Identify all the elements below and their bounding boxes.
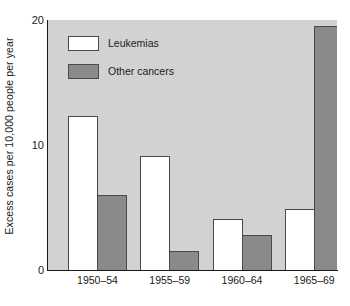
legend-swatch-leukemias xyxy=(68,36,99,51)
bar-chart-figure: Excess cases per 10,000 people per year … xyxy=(0,0,350,306)
x-axis-tick-labels: 1950–541955–591960–641965–69 xyxy=(48,274,337,294)
x-axis-tick-label: 1965–69 xyxy=(284,274,344,286)
x-axis-tick-label: 1955–59 xyxy=(140,274,200,286)
legend-label-other-cancers: Other cancers xyxy=(108,65,174,77)
legend-swatch-other-cancers xyxy=(68,64,99,79)
x-axis-line xyxy=(47,270,338,271)
legend-item-other-cancers: Other cancers xyxy=(68,60,174,82)
bar-leukemias xyxy=(285,209,315,270)
legend: Leukemias Other cancers xyxy=(68,32,174,88)
y-axis-tick-label: 20 xyxy=(18,15,44,26)
bar-other-cancers xyxy=(97,195,127,270)
y-axis-tick-label: 0 xyxy=(18,265,44,276)
y-axis-tick-label: 10 xyxy=(18,140,44,151)
bar-leukemias xyxy=(140,156,170,270)
bar-other-cancers xyxy=(242,235,272,270)
bar-leukemias xyxy=(213,219,243,270)
bar-other-cancers xyxy=(314,26,337,270)
x-axis-tick-label: 1950–54 xyxy=(68,274,128,286)
bar-other-cancers xyxy=(169,251,199,270)
bar-leukemias xyxy=(68,116,98,270)
x-axis-tick-label: 1960–64 xyxy=(212,274,272,286)
legend-item-leukemias: Leukemias xyxy=(68,32,174,54)
plot-area: Leukemias Other cancers xyxy=(48,20,337,270)
y-axis-tick-labels: 01020 xyxy=(16,0,44,306)
legend-label-leukemias: Leukemias xyxy=(108,37,159,49)
y-axis-title-text: Excess cases per 10,000 people per year xyxy=(3,37,15,234)
